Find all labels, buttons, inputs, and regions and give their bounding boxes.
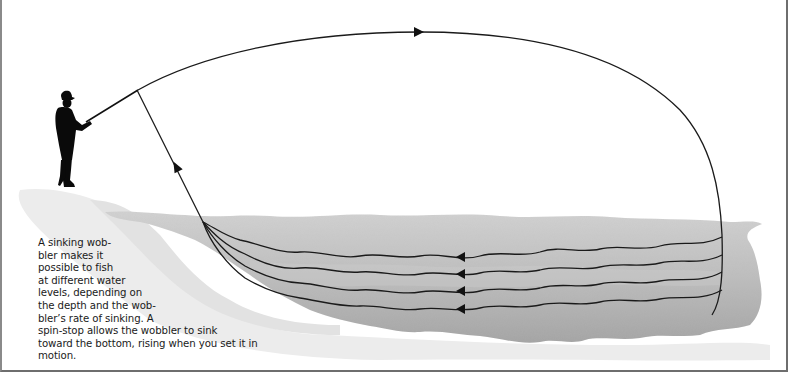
caption-line: bler makes it [38,250,288,263]
angler-silhouette [55,91,92,187]
caption-line: levels, depending on [38,287,288,300]
caption-line: spin-stop allows the wobbler to sink [38,325,288,338]
caption-line: bler’s rate of sinking. A [38,313,288,326]
caption-line: toward the bottom, rising when you set i… [38,338,288,351]
caption-line: A sinking wob- [38,237,288,250]
caption-line: possible to fish [38,262,288,275]
caption-line: at different water [38,275,288,288]
caption-line: motion. [38,350,288,363]
line-to-water [137,90,203,222]
arrow-up-icon [170,159,183,173]
caption-line: the depth and the wob- [38,300,288,313]
fishing-rod [86,90,138,122]
figure-caption: A sinking wob- bler makes it possible to… [38,237,288,363]
arrow-right-icon [414,27,424,37]
